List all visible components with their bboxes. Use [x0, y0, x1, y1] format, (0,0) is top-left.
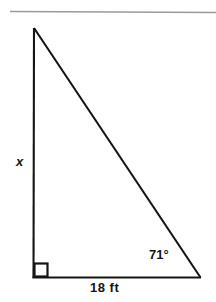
- triangle-vertical-leg: [34, 28, 35, 278]
- figure-canvas: x 71° 18 ft: [0, 0, 216, 302]
- vertical-leg-label: x: [16, 155, 23, 168]
- top-horizontal-rule: [10, 12, 216, 13]
- base-length-label: 18 ft: [90, 281, 119, 294]
- right-angle-marker-icon: [35, 264, 48, 277]
- triangle-hypotenuse: [34, 28, 201, 278]
- base-angle-label: 71°: [149, 248, 169, 261]
- right-triangle-figure: [0, 0, 216, 302]
